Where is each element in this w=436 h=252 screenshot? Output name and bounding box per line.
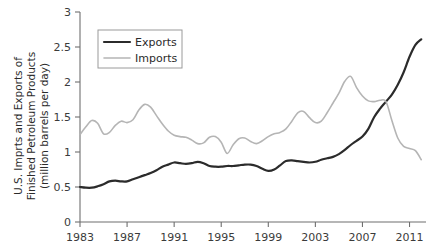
y-tick-label: 2 bbox=[64, 76, 71, 89]
chart-legend: Exports Imports bbox=[98, 30, 182, 68]
y-axis-title-line-2: Finished Petroleum Products bbox=[25, 52, 37, 200]
x-tick-label: 2003 bbox=[301, 231, 329, 244]
line-chart: U.S. Imprts and Exports of Finished Petr… bbox=[0, 0, 436, 252]
y-tick-label: 1.5 bbox=[54, 111, 72, 124]
x-tick-label: 1999 bbox=[254, 231, 282, 244]
y-tick-label: 3 bbox=[64, 6, 71, 19]
y-axis-title: U.S. Imprts and Exports of Finished Petr… bbox=[12, 52, 50, 200]
y-axis-ticks: 00.511.522.53 bbox=[54, 6, 81, 229]
x-tick-label: 1987 bbox=[113, 231, 141, 244]
x-tick-label: 2007 bbox=[348, 231, 376, 244]
x-axis-ticks: 19831987199119951999200320072011 bbox=[66, 222, 424, 244]
x-tick-label: 1995 bbox=[207, 231, 235, 244]
x-tick-label: 1983 bbox=[66, 231, 94, 244]
chart-container: U.S. Imprts and Exports of Finished Petr… bbox=[0, 0, 436, 252]
y-tick-label: 2.5 bbox=[54, 41, 72, 54]
y-tick-label: 1 bbox=[64, 146, 71, 159]
y-tick-label: 0.5 bbox=[54, 181, 72, 194]
series-line-imports bbox=[80, 76, 421, 160]
legend-label-imports: Imports bbox=[135, 52, 178, 65]
x-tick-label: 1991 bbox=[160, 231, 188, 244]
y-axis-title-line-3: (million barrels per day) bbox=[38, 63, 50, 189]
y-tick-label: 0 bbox=[64, 216, 71, 229]
x-tick-label: 2011 bbox=[396, 231, 424, 244]
y-axis-title-line-1: U.S. Imprts and Exports of bbox=[12, 57, 24, 195]
legend-label-exports: Exports bbox=[135, 36, 177, 49]
